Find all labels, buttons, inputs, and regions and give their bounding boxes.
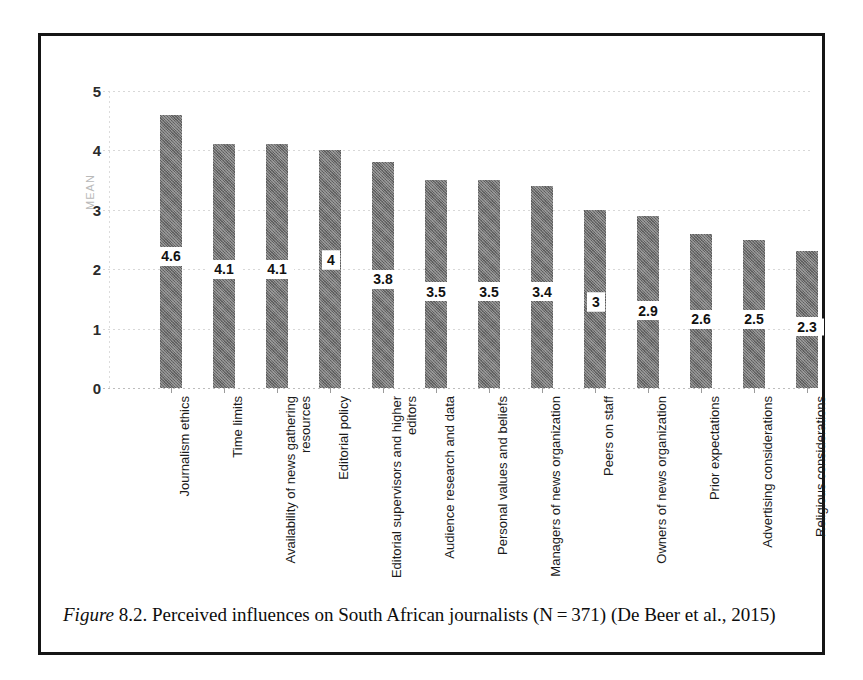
- bar[interactable]: [213, 144, 235, 259]
- gridline: [103, 150, 812, 151]
- bar-value-label: 4.1: [260, 261, 294, 278]
- chart-plot-area: MEAN 543210 4.64.14.143.83.53.53.432.92.…: [41, 36, 822, 596]
- x-tick: [277, 388, 278, 393]
- x-axis-label: Time limits: [230, 396, 245, 626]
- bar[interactable]: [796, 251, 818, 317]
- x-axis-label: Peers on staff: [601, 396, 616, 626]
- bar-value-label: 2.9: [631, 302, 665, 319]
- bar-lower-segment[interactable]: [478, 301, 500, 388]
- x-tick: [648, 388, 649, 393]
- x-axis-label: Advertising considerations: [760, 396, 775, 626]
- y-axis-line: [109, 91, 110, 388]
- x-tick: [595, 388, 596, 393]
- figure-frame: MEAN 543210 4.64.14.143.83.53.53.432.92.…: [38, 33, 825, 655]
- bar-value-label: 3.5: [419, 283, 453, 300]
- x-axis-label: Availability of news gathering resources: [283, 396, 313, 626]
- bar[interactable]: [531, 186, 553, 282]
- figure-caption: Figure 8.2. Perceived influences on Sout…: [63, 602, 804, 627]
- x-axis-label: Religious considerations: [813, 396, 828, 626]
- x-axis-label: Editorial policy: [336, 396, 351, 626]
- x-tick: [436, 388, 437, 393]
- x-tick: [330, 388, 331, 393]
- bar-value-label: 3: [587, 292, 605, 311]
- bar-value-label: 2.3: [790, 318, 824, 335]
- bar-value-label: 4.1: [207, 261, 241, 278]
- x-axis-label: Personal values and beliefs: [495, 396, 510, 626]
- x-tick: [171, 388, 172, 393]
- y-tick-label: 0: [71, 380, 101, 397]
- bar-lower-segment[interactable]: [690, 329, 712, 388]
- x-tick: [224, 388, 225, 393]
- x-axis-label: Audience research and data: [442, 396, 457, 626]
- x-axis-label: Prior expectations: [707, 396, 722, 626]
- y-tick-label: 3: [71, 201, 101, 218]
- x-axis-label: Journalism ethics: [177, 396, 192, 626]
- x-axis-label: Owners of news organization: [654, 396, 669, 626]
- y-tick-label: 1: [71, 320, 101, 337]
- bar-value-label: 2.6: [684, 311, 718, 328]
- x-axis-label: Managers of news organization: [548, 396, 563, 626]
- bar[interactable]: [160, 115, 182, 247]
- bar-value-label: 4.6: [154, 248, 188, 265]
- bar-lower-segment[interactable]: [266, 279, 288, 388]
- y-tick-label: 4: [71, 142, 101, 159]
- gridline: [103, 388, 812, 389]
- gridline: [103, 91, 812, 92]
- bar-lower-segment[interactable]: [425, 301, 447, 388]
- bar-lower-segment[interactable]: [796, 336, 818, 388]
- x-tick: [701, 388, 702, 393]
- bar-lower-segment[interactable]: [531, 301, 553, 388]
- bar-lower-segment[interactable]: [213, 279, 235, 388]
- caption-figure-word: Figure: [63, 604, 114, 625]
- x-tick: [489, 388, 490, 393]
- bar[interactable]: [425, 180, 447, 282]
- bar[interactable]: [372, 162, 394, 270]
- bar[interactable]: [637, 216, 659, 302]
- bar[interactable]: [478, 180, 500, 282]
- x-tick: [807, 388, 808, 393]
- caption-body: Perceived influences on South African jo…: [152, 604, 776, 625]
- bar-lower-segment[interactable]: [743, 329, 765, 388]
- x-tick: [542, 388, 543, 393]
- bar-value-label: 3.8: [366, 271, 400, 288]
- x-tick: [383, 388, 384, 393]
- caption-number: 8.2.: [119, 604, 148, 625]
- bar[interactable]: [743, 240, 765, 310]
- y-tick-label: 2: [71, 261, 101, 278]
- gridline: [103, 210, 812, 211]
- bar[interactable]: [266, 144, 288, 259]
- bar-value-label: 3.5: [472, 283, 506, 300]
- y-tick-label: 5: [71, 83, 101, 100]
- bar-value-label: 4: [322, 251, 340, 270]
- bar-lower-segment[interactable]: [160, 266, 182, 388]
- bar-lower-segment[interactable]: [372, 289, 394, 388]
- bar-value-label: 3.4: [525, 283, 559, 300]
- bar-value-label: 2.5: [737, 311, 771, 328]
- x-axis-label: Editorial supervisors and higher editors: [389, 396, 419, 626]
- x-tick: [754, 388, 755, 393]
- bar[interactable]: [690, 234, 712, 310]
- bar-lower-segment[interactable]: [637, 320, 659, 388]
